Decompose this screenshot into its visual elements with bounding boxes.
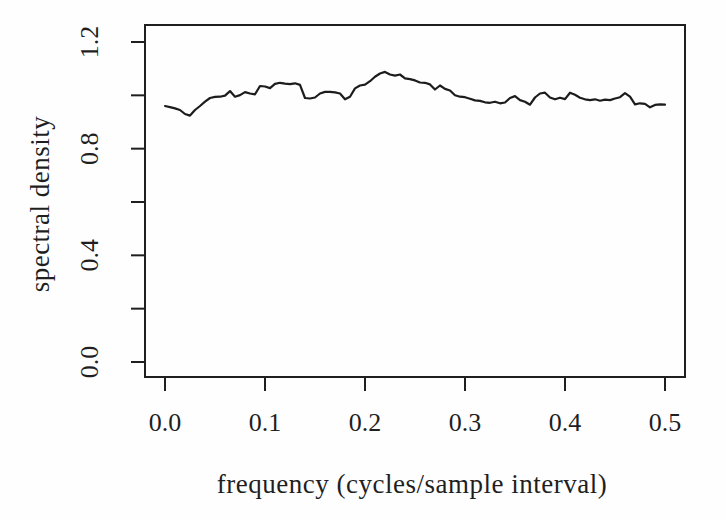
spectrum-line xyxy=(165,72,665,116)
plot-border xyxy=(145,25,685,377)
y-tick-label: 0.8 xyxy=(75,132,104,165)
spectral-density-figure: 0.00.10.20.30.40.50.00.40.81.2 frequency… xyxy=(0,0,726,521)
x-tick-label: 0.0 xyxy=(149,408,182,437)
x-tick-label: 0.1 xyxy=(249,408,282,437)
x-tick-label: 0.4 xyxy=(549,408,582,437)
x-tick-label: 0.5 xyxy=(649,408,682,437)
x-tick-label: 0.2 xyxy=(349,408,382,437)
plot-canvas: 0.00.10.20.30.40.50.00.40.81.2 xyxy=(0,0,726,521)
x-tick-label: 0.3 xyxy=(449,408,482,437)
y-tick-label: 0.4 xyxy=(75,239,104,271)
y-axis-label: spectral density xyxy=(25,116,56,293)
y-tick-label: 0.0 xyxy=(75,346,104,379)
x-axis-label: frequency (cycles/sample interval) xyxy=(217,469,607,500)
y-tick-label: 1.2 xyxy=(75,26,104,59)
